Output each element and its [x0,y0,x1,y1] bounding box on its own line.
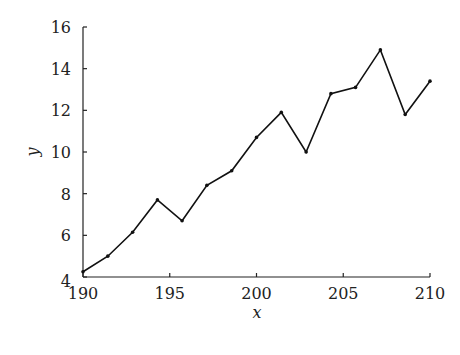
data-point [304,150,308,154]
x-tick-label: 205 [328,284,359,303]
axes [83,27,430,277]
data-series [81,48,432,273]
data-point [428,79,432,83]
y-ticks: 46810121416 [51,18,87,291]
y-tick-label: 8 [61,185,71,204]
data-point [81,270,85,274]
data-point [255,136,259,140]
data-point [131,230,135,234]
y-tick-label: 4 [61,272,71,291]
line-chart: 190195200205210 46810121416 x y [0,0,460,355]
data-point [156,198,160,202]
data-point [354,86,358,90]
data-point [180,219,184,223]
y-tick-label: 10 [51,143,71,162]
data-point [106,254,110,258]
data-point [230,169,234,173]
data-point [280,111,284,115]
x-tick-label: 195 [154,284,185,303]
x-tick-label: 210 [415,284,446,303]
x-axis-label: x [252,303,261,322]
x-tick-label: 190 [68,284,99,303]
y-tick-label: 16 [51,18,71,37]
data-point [379,48,383,52]
y-tick-label: 6 [61,226,71,245]
data-point [329,92,333,96]
x-tick-label: 200 [241,284,272,303]
data-point [205,184,209,188]
y-axis-label: y [23,147,42,158]
data-point [403,113,407,117]
y-tick-label: 12 [51,101,71,120]
y-tick-label: 14 [51,60,71,79]
series-line [83,50,430,272]
